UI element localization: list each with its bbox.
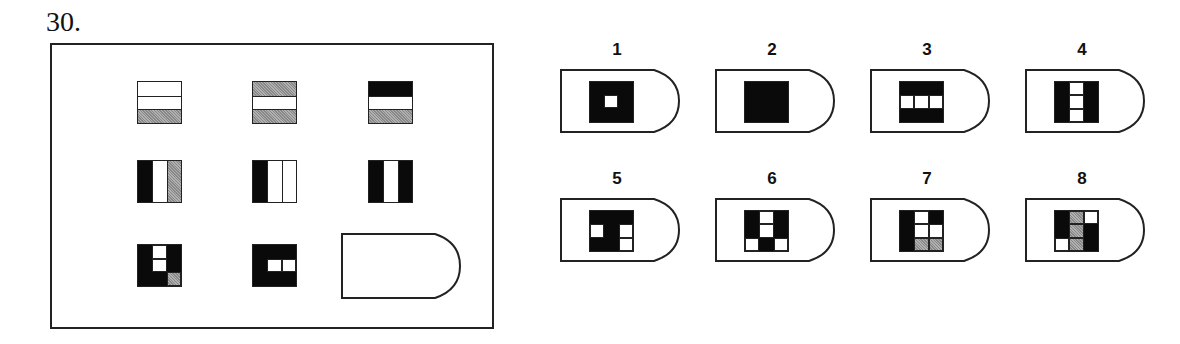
figure-segment <box>253 272 267 286</box>
figure-segment <box>253 259 267 273</box>
option-figure <box>744 210 789 252</box>
figure-segment <box>1069 211 1083 224</box>
puzzle-matrix <box>50 43 494 329</box>
figure-segment <box>267 259 281 273</box>
figure-segment <box>1084 211 1098 224</box>
figure-segment <box>253 109 296 123</box>
figure-segment <box>914 211 928 224</box>
figure-segment <box>590 224 604 237</box>
figure-segment <box>1069 82 1083 95</box>
figure-segment <box>167 245 181 259</box>
matrix-figure <box>252 81 297 124</box>
option-label: 3 <box>865 40 989 60</box>
figure-segment <box>929 238 943 251</box>
figure-segment <box>619 211 633 224</box>
option-figure <box>1054 210 1099 252</box>
figure-segment <box>167 161 181 202</box>
figure-segment <box>167 272 181 286</box>
answer-option-7[interactable] <box>869 197 993 263</box>
figure-segment <box>1055 95 1069 108</box>
figure-segment <box>267 272 281 286</box>
figure-segment <box>900 224 914 237</box>
figure-segment <box>929 109 943 122</box>
figure-segment <box>759 211 773 224</box>
figure-segment <box>1055 238 1069 251</box>
figure-segment <box>774 238 788 251</box>
figure-segment <box>900 109 914 122</box>
option-figure <box>1054 81 1099 123</box>
figure-segment <box>914 238 928 251</box>
figure-segment <box>900 95 914 108</box>
figure-segment <box>369 96 412 110</box>
figure-segment <box>745 238 759 251</box>
figure-segment <box>398 161 412 202</box>
figure-segment <box>152 259 166 273</box>
figure-segment <box>1055 109 1069 122</box>
figure-segment <box>914 95 928 108</box>
figure-segment <box>282 161 296 202</box>
figure-segment <box>745 224 759 237</box>
figure-segment <box>267 161 281 202</box>
figure-segment <box>369 161 383 202</box>
matrix-figure <box>368 160 413 203</box>
option-figure <box>899 210 944 252</box>
figure-segment <box>1084 238 1098 251</box>
figure-segment <box>1084 95 1098 108</box>
figure-segment <box>138 161 152 202</box>
matrix-figure <box>368 81 413 124</box>
figure-segment <box>1069 238 1083 251</box>
figure-segment <box>282 272 296 286</box>
answer-option-4[interactable] <box>1024 68 1148 134</box>
option-label: 8 <box>1020 169 1144 189</box>
figure-segment <box>914 224 928 237</box>
figure-segment <box>604 224 618 237</box>
option-label: 7 <box>865 169 989 189</box>
option-label: 5 <box>555 169 679 189</box>
figure-segment <box>138 272 152 286</box>
answer-option-1[interactable] <box>559 68 683 134</box>
figure-segment <box>253 161 267 202</box>
answer-option-8[interactable] <box>1024 197 1148 263</box>
figure-segment <box>267 245 281 259</box>
question-number: 30. <box>46 6 81 38</box>
figure-segment <box>138 82 181 96</box>
figure-segment <box>152 161 166 202</box>
figure-segment <box>383 161 397 202</box>
answer-option-6[interactable] <box>714 197 838 263</box>
figure-segment <box>138 96 181 110</box>
figure-segment <box>167 259 181 273</box>
matrix-figure <box>137 160 182 203</box>
figure-segment <box>759 238 773 251</box>
figure-segment <box>929 95 943 108</box>
figure-segment <box>1055 224 1069 237</box>
figure-segment <box>914 82 928 95</box>
figure-segment <box>369 109 412 123</box>
figure-segment <box>590 211 604 224</box>
matrix-figure <box>137 81 182 124</box>
matrix-figure <box>252 244 297 287</box>
figure-segment <box>138 259 152 273</box>
figure-segment <box>282 245 296 259</box>
figure-segment <box>152 272 166 286</box>
figure-segment <box>1055 211 1069 224</box>
figure-segment <box>1084 82 1098 95</box>
matrix-figure <box>252 160 297 203</box>
figure-segment <box>900 238 914 251</box>
figure-segment <box>900 211 914 224</box>
figure-segment <box>929 82 943 95</box>
answer-option-5[interactable] <box>559 197 683 263</box>
figure-segment <box>914 109 928 122</box>
figure-segment <box>604 211 618 224</box>
figure-segment <box>138 109 181 123</box>
figure-segment <box>774 224 788 237</box>
figure-segment <box>1069 95 1083 108</box>
figure-segment <box>929 211 943 224</box>
figure-segment <box>369 82 412 96</box>
answer-option-2[interactable] <box>714 68 838 134</box>
figure-segment <box>1084 109 1098 122</box>
answer-option-3[interactable] <box>869 68 993 134</box>
option-figure <box>899 81 944 123</box>
figure-segment <box>745 211 759 224</box>
figure-segment <box>619 224 633 237</box>
figure-segment <box>1069 109 1083 122</box>
